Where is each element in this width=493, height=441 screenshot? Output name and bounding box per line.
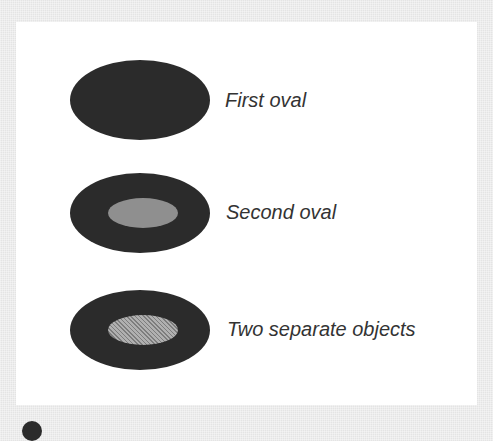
first-oval-shape	[70, 60, 210, 140]
second-oval-inner-shape	[108, 198, 178, 228]
separate-objects-label: Two separate objects	[227, 317, 416, 341]
second-oval-label: Second oval	[226, 200, 336, 224]
first-oval-label: First oval	[225, 88, 306, 112]
separate-objects-inner-shape	[108, 315, 178, 345]
step-number-badge	[22, 421, 42, 441]
